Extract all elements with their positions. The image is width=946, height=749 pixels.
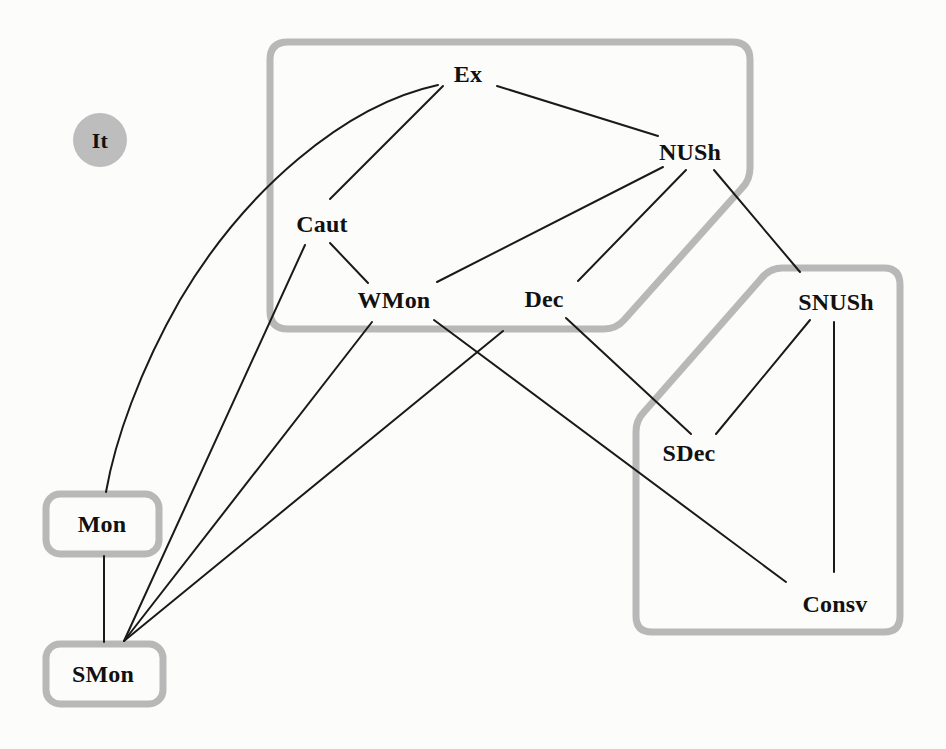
diagram-vector-layer [0, 0, 946, 749]
node-mon-label[interactable]: Mon [78, 512, 127, 536]
edge-nush-wmon[interactable] [437, 167, 663, 282]
edge-snush-sdec[interactable] [716, 320, 810, 434]
node-snush-label[interactable]: SNUSh [798, 290, 874, 314]
node-consv-label[interactable]: Consv [802, 592, 867, 616]
node-caut-label[interactable]: Caut [296, 212, 347, 236]
node-sdec-label[interactable]: SDec [663, 441, 716, 465]
node-it-label[interactable]: It [92, 130, 108, 152]
edge-dec-smon[interactable] [124, 331, 503, 641]
edge-caut-wmon[interactable] [330, 243, 368, 283]
upper-region-outline[interactable] [270, 42, 750, 329]
edge-nush-snush[interactable] [714, 170, 800, 272]
region-layer [46, 42, 900, 704]
edge-ex-nush[interactable] [497, 86, 658, 136]
node-smon-label[interactable]: SMon [72, 662, 134, 686]
node-dec-label[interactable]: Dec [524, 287, 563, 311]
diagram-canvas-root: It Ex NUSh Caut WMon Dec SNUSh SDec Cons… [0, 0, 946, 749]
node-ex-label[interactable]: Ex [454, 62, 482, 86]
node-wmon-label[interactable]: WMon [358, 288, 431, 312]
node-nush-label[interactable]: NUSh [659, 140, 721, 164]
edge-layer [104, 85, 834, 642]
